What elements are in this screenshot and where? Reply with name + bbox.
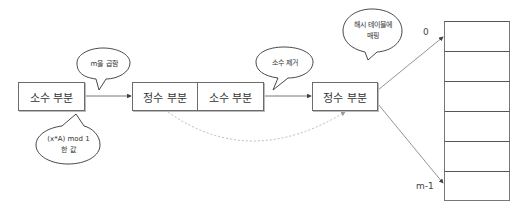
hash-table-slot xyxy=(444,141,510,171)
dashed-carry-curve xyxy=(168,112,345,141)
hash-table-slot xyxy=(444,111,510,141)
integer-part-box: 정수 부분 xyxy=(132,82,198,111)
bubble-text-map-line2: 매핑 xyxy=(367,31,379,42)
hash-table-slot xyxy=(444,21,510,51)
bubble-text-remove-fraction: 소수 제거 xyxy=(257,49,313,77)
hash-table-slot xyxy=(444,81,510,111)
arrow-to-index-m-1 xyxy=(378,104,443,183)
bubble-text-mod-value: (x*A) mod 1 한 값 xyxy=(37,128,100,162)
hash-table-slot xyxy=(444,171,510,201)
bubble-text-mod-line1: (x*A) mod 1 xyxy=(47,134,89,145)
bubble-text-map-line1: 해시 테이블에 xyxy=(354,20,392,31)
fraction-part-box-2: 소수 부분 xyxy=(197,82,264,111)
index-label-0: 0 xyxy=(423,27,429,37)
integer-part-result-box: 정수 부분 xyxy=(312,82,378,111)
index-label-m-1: m-1 xyxy=(416,181,434,191)
bubble-text-multiply: m을 곱함 xyxy=(78,50,130,78)
fraction-part-box: 소수 부분 xyxy=(18,82,85,111)
bubble-text-map-hash-table: 해시 테이블에 매핑 xyxy=(344,12,402,50)
bubble-text-mod-line2: 한 값 xyxy=(61,145,75,156)
hash-table-slot xyxy=(444,51,510,81)
